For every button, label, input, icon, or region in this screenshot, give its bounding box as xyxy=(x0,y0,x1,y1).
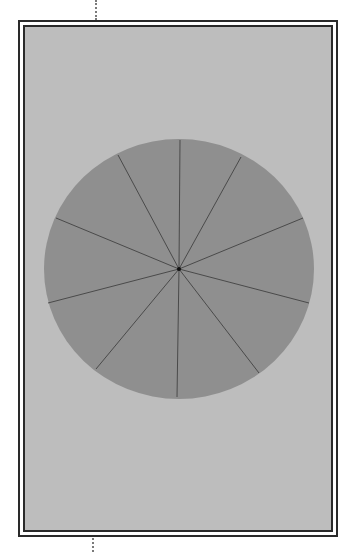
center-dot xyxy=(177,267,181,271)
segmented-circle xyxy=(0,0,348,552)
